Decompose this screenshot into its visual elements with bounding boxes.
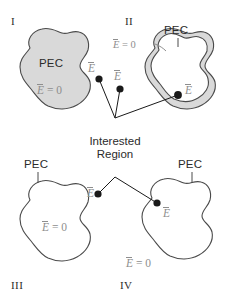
quadrant-1-exterior-field-label: E [88,62,95,75]
interested-region-line-1: Interested [81,135,149,148]
connector-q2-to-apex [115,95,178,118]
e-bar-symbol: E [114,70,121,83]
field-point-dot-q4 [153,199,160,206]
interested-region-line-2: Region [81,148,149,161]
e-bar-symbol: E [126,257,133,270]
pec-configurations-figure: I II III IV PEC PEC PEC PEC Interested R… [0,0,231,304]
e-bar-symbol: E [185,84,192,97]
field-point-dot-center-upper [116,85,123,92]
quadrant-2-interior-field-label: E [185,84,192,97]
field-point-dot-q3 [94,190,101,197]
center-upper-field-label: E [114,70,121,83]
quadrant-3-exterior-field-label: E [87,187,94,200]
e-bar-symbol: E [42,221,49,234]
connector-q1-to-apex [99,79,115,118]
quadrant-numeral-4: IV [120,280,132,291]
quadrant-4-pec-label: PEC [178,159,202,171]
quadrant-3-interior-field-label: E = 0 [42,221,67,234]
quadrant-1-interior-field-label: E = 0 [37,84,62,97]
e-equals-zero: = 0 [122,39,136,50]
interested-region-label: Interested Region [81,135,149,161]
connector-center-to-apex [115,89,120,118]
e-bar-symbol: E [87,187,94,200]
quadrant-numeral-3: III [11,280,23,291]
field-point-dot-q2 [174,91,182,99]
e-equals-zero: = 0 [47,84,62,96]
quadrant-4-exterior-field-label: E = 0 [126,257,151,270]
quadrant-1-pec-label: PEC [39,58,63,70]
quadrant-2-shell-field-label: E = 0 [113,39,136,51]
e-bar-symbol: E [163,207,170,220]
e-equals-zero: = 0 [136,257,151,269]
quadrant-3-pec-label: PEC [24,159,48,171]
e-bar-symbol: E [88,62,95,75]
e-bar-symbol: E [113,39,119,51]
quadrant-numeral-1: I [11,16,15,27]
e-bar-symbol: E [37,84,44,97]
e-equals-zero: = 0 [52,221,67,233]
field-point-dot-q1 [95,75,102,82]
quadrant-4-blob [142,178,212,258]
quadrant-2-pec-label: PEC [164,25,188,37]
connector-lower-apex-to-q3-dot [98,177,115,194]
quadrant-4-interior-field-label: E [163,207,170,220]
quadrant-numeral-2: II [125,16,133,27]
